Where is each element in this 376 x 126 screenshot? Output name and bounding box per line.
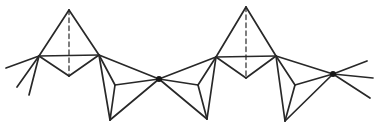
shared-vertex-dot-node1 [156, 76, 162, 82]
edge-uA_right-node1 [99, 55, 159, 79]
edge-uB_apex-uB_right [246, 7, 276, 56]
edge-uA_apex-uA_left [39, 10, 69, 56]
edge-uB_right-node2 [276, 56, 333, 74]
edge-uA_left-uA_front [39, 56, 69, 76]
edge-node1-uB_left [159, 57, 216, 79]
shared-vertex-dot-node2 [330, 71, 336, 77]
edge-uB_right-uB_front [246, 56, 276, 78]
edge-uA_apex-uA_right [69, 10, 99, 55]
edge-d2_bottom-uB_left [207, 57, 216, 119]
edge-node2-tail_right_1 [333, 61, 367, 74]
edge-uB_apex-uB_left [216, 7, 246, 57]
edge-d1_bottom-d1_back [110, 85, 115, 120]
edge-uB_left-uB_front [216, 57, 246, 78]
tetrahedra-chain-svg [0, 0, 376, 126]
edge-node1-d2_bottom [159, 79, 207, 119]
diagram-canvas [0, 0, 376, 126]
edge-d2_bottom-d2_back [198, 85, 207, 119]
edge-uA_left-uA_right [39, 55, 99, 56]
edge-uB_right-d3_bottom [276, 56, 285, 121]
edge-uA_right-uA_front [69, 55, 99, 76]
edge-uB_left-uB_right [216, 56, 276, 57]
